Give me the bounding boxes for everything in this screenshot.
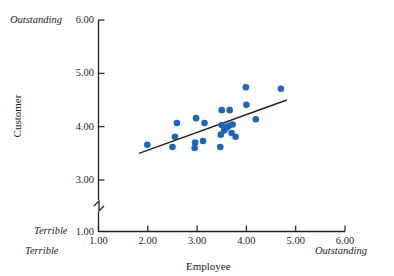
x-tick-label: 3.00	[182, 236, 212, 247]
data-point	[232, 134, 239, 141]
regression-line	[139, 100, 287, 153]
data-point	[243, 84, 250, 91]
trend-line	[139, 100, 287, 153]
x-tick-label: 1.00	[84, 236, 114, 247]
y-tick-label: 4.00	[68, 122, 94, 133]
y-tick-label: 3.00	[68, 175, 94, 186]
x-tick-label: 5.00	[281, 236, 311, 247]
data-point	[226, 107, 233, 114]
x-axis-right-anchor-label: Outstanding	[315, 246, 367, 257]
x-axis-title: Employee	[186, 261, 231, 272]
x-tick-label: 4.00	[231, 236, 261, 247]
x-tick-label: 2.00	[133, 236, 163, 247]
data-point	[218, 107, 225, 114]
data-point	[229, 121, 236, 128]
data-point	[169, 144, 176, 151]
y-tick-label: 5.00	[68, 68, 94, 79]
data-point	[243, 102, 250, 109]
data-points	[144, 84, 284, 151]
y-tick-label: 6.00	[68, 15, 94, 26]
x-axis-left-anchor-label: Terrible	[25, 246, 58, 257]
data-point	[200, 138, 207, 145]
data-point	[193, 115, 200, 122]
x-tick-label: 6.00	[330, 236, 360, 247]
y-axis-top-anchor-label: Outstanding	[10, 15, 62, 26]
scatter-plot-figure: Customer Outstanding Terrible Terrible O…	[0, 0, 394, 276]
y-axis-title: Customer	[11, 86, 23, 146]
data-point	[192, 139, 199, 146]
data-point	[144, 142, 151, 149]
data-point	[174, 120, 181, 127]
data-point	[201, 120, 208, 127]
data-point	[172, 134, 179, 141]
data-point	[252, 116, 259, 123]
y-axis-ticks	[99, 20, 105, 180]
x-axis-ticks	[99, 226, 346, 232]
data-point	[217, 144, 224, 151]
y-axis-break-icon	[94, 201, 104, 211]
y-axis-bottom-anchor-label: Terrible	[34, 226, 67, 237]
data-point	[278, 86, 285, 93]
